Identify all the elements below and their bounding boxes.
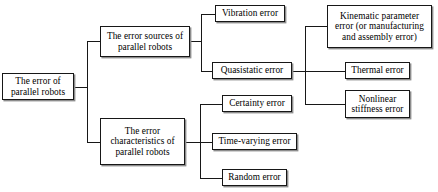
node-vibration-error[interactable]: Vibration error — [215, 5, 285, 22]
node-error-sources[interactable]: The error sources of parallel robots — [100, 26, 190, 57]
connector-quasistatic-to-thermal — [305, 71, 345, 72]
node-root[interactable]: The error of parallel robots — [2, 73, 74, 100]
connector-quasistatic-to-nonlinear — [305, 104, 345, 105]
connector-quasistatic-out — [292, 71, 306, 72]
error-classification-diagram: The error of parallel robots The error s… — [0, 0, 438, 192]
node-error-characteristics[interactable]: The error characteristics of parallel ro… — [100, 118, 185, 165]
node-nonlinear-stiffness-error[interactable]: Nonlinear stiffness error — [345, 90, 410, 118]
connector-root-to-sources — [87, 41, 101, 42]
connector-root-trunk — [87, 41, 88, 142]
node-quasistatic-error[interactable]: Quasistatic error — [212, 62, 292, 79]
connector-quasistatic-to-kinematic — [305, 26, 327, 27]
connector-root-to-characteristics — [87, 142, 101, 143]
connector-root-out — [74, 87, 88, 88]
connector-sources-trunk — [201, 14, 202, 72]
node-thermal-error[interactable]: Thermal error — [345, 62, 410, 79]
connector-characteristics-out — [185, 142, 201, 143]
connector-sources-to-quasistatic — [201, 71, 212, 72]
connector-characteristics-to-certainty — [200, 104, 222, 105]
node-certainty-error[interactable]: Certainty error — [222, 95, 292, 112]
node-kinematic-parameter-error[interactable]: Kinematic parameter error (or manufactur… — [327, 5, 432, 48]
connector-sources-to-vibration — [201, 14, 215, 15]
connector-characteristics-to-random — [200, 178, 222, 179]
connector-quasistatic-trunk — [305, 26, 306, 104]
node-time-varying-error[interactable]: Time-varying error — [212, 133, 297, 150]
node-random-error[interactable]: Random error — [222, 169, 287, 186]
connector-characteristics-to-timevarying — [200, 142, 212, 143]
